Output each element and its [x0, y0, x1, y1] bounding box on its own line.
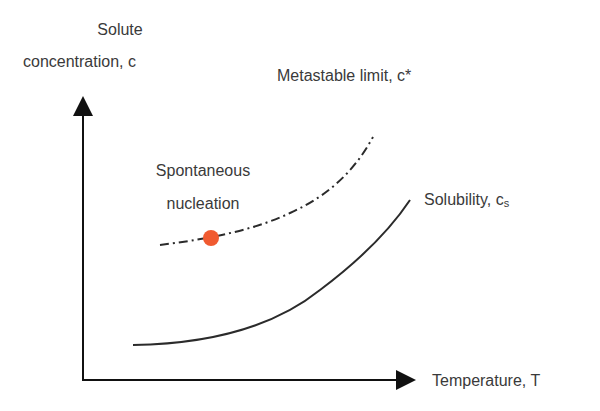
solubility-label-text: Solubility, c: [424, 191, 504, 208]
x-axis-label: Temperature, T: [432, 371, 540, 391]
solubility-label: Solubility, cs: [424, 190, 509, 213]
metastable-limit-curve: [160, 137, 373, 245]
y-axis-label-line1: Solute: [60, 20, 180, 40]
metastable-limit-label: Metastable limit, c*: [277, 66, 411, 86]
nucleation-marker: [203, 230, 219, 246]
annotation-line1: Spontaneous: [133, 161, 273, 181]
solubility-subscript: s: [504, 197, 510, 209]
annotation-line2: nucleation: [133, 194, 273, 214]
y-axis-label-line2: concentration, c: [23, 52, 136, 72]
solubility-curve: [133, 200, 410, 345]
